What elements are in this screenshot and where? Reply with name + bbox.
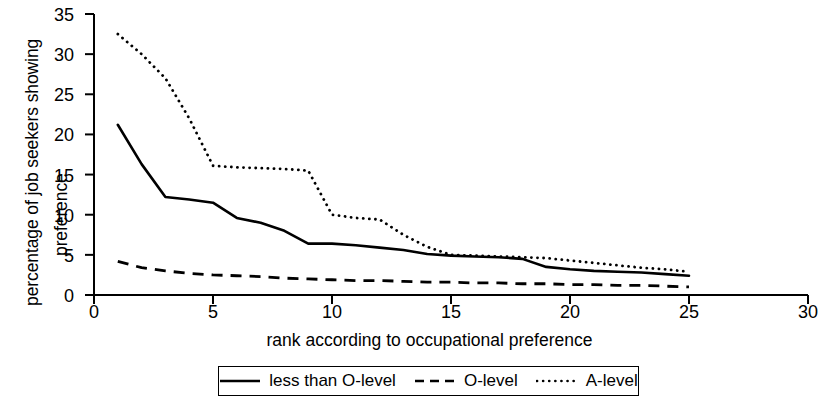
legend-item-less-than-o-level[interactable]: less than O-level bbox=[219, 371, 396, 391]
legend-label-less-than-o-level: less than O-level bbox=[269, 371, 396, 391]
x-axis-title: rank according to occupational preferenc… bbox=[0, 330, 823, 351]
legend-swatch-solid-icon bbox=[219, 375, 261, 387]
series-line-o-level bbox=[118, 261, 689, 287]
legend-item-o-level[interactable]: O-level bbox=[414, 371, 518, 391]
series-line-less-than-o-level bbox=[118, 125, 689, 276]
x-axis-ticks bbox=[94, 295, 808, 304]
x-axis-title-text: rank according to occupational preferenc… bbox=[267, 330, 593, 350]
series-line-a-level bbox=[118, 34, 689, 272]
legend-item-a-level[interactable]: A-level bbox=[536, 371, 638, 391]
legend-swatch-dashed-icon bbox=[414, 375, 456, 387]
legend-label-a-level: A-level bbox=[586, 371, 638, 391]
legend-label-o-level: O-level bbox=[464, 371, 518, 391]
y-axis-ticks bbox=[85, 14, 94, 295]
line-chart-figure: percentage of job seekers showing prefer… bbox=[0, 0, 823, 403]
legend-swatch-dotted-icon bbox=[536, 375, 578, 387]
data-series-group bbox=[118, 34, 689, 287]
chart-legend: less than O-level O-level A-level bbox=[218, 366, 639, 396]
